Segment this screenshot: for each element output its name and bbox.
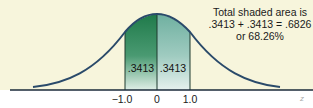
annotation-line-1: Total shaded area is	[200, 6, 313, 18]
right-area-label: .3413	[160, 62, 186, 74]
annotation-line-2: .3413 + .3413 = .6826	[200, 18, 313, 30]
annotation: Total shaded area is .3413 + .3413 = .68…	[200, 6, 313, 42]
left-area-label: .3413	[128, 62, 154, 74]
tick-1: 1.0	[183, 93, 198, 105]
tick-0: 0	[154, 93, 160, 105]
annotation-line-3: or 68.26%	[200, 30, 313, 42]
tick-neg1: −1.0	[112, 93, 133, 105]
z-axis-label: z	[300, 94, 304, 103]
